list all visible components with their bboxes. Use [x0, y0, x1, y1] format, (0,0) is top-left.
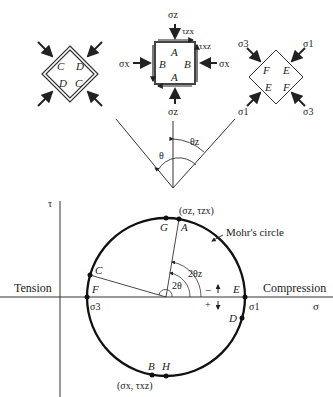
theta-z-label: θz: [190, 136, 200, 147]
label-F: F: [91, 283, 99, 295]
tau-zx: τzx: [182, 26, 195, 36]
label-B: B: [159, 58, 166, 70]
theta-label: θ: [159, 150, 164, 161]
label-C: C: [57, 60, 65, 72]
plus-sign: +: [205, 299, 211, 310]
sigma-z-top: σz: [168, 9, 178, 20]
label-D: D: [228, 312, 237, 324]
label-C: C: [75, 77, 83, 89]
point-B-coordinates: (σx, τxz): [117, 380, 153, 392]
label-E: E: [264, 81, 272, 93]
label-B: B: [148, 360, 155, 372]
sigma1-top: σ1: [303, 38, 313, 49]
label-D: D: [75, 60, 84, 72]
mohr-circle-diagram: C D D C σz τzx τxz σx σx σz A B B A σ3 σ…: [0, 0, 333, 397]
point-H: [164, 374, 169, 379]
label-F: F: [262, 64, 270, 76]
mohr-circle-plot: τ σ Tension Compression − + G A (σz, τzx…: [0, 198, 333, 397]
sigma3-bottom: σ3: [303, 106, 313, 117]
tau-xz: τxz: [199, 41, 211, 51]
sigma-axis-label: σ: [313, 300, 319, 312]
sigma1-bottom: σ1: [238, 106, 248, 117]
point-C: [88, 273, 93, 278]
label-H: H: [161, 360, 171, 372]
label-C: C: [95, 264, 103, 276]
label-G: G: [160, 221, 168, 233]
point-D: [240, 316, 245, 321]
tension-label: Tension: [14, 281, 52, 295]
sigma1-label: σ1: [249, 301, 259, 312]
mohrs-circle-label: Mohr's circle: [226, 226, 284, 238]
minus-sign: −: [205, 284, 211, 296]
label-A: A: [180, 221, 188, 233]
sigma-x-left: σx: [119, 58, 129, 69]
label-B: B: [184, 58, 191, 70]
angle-diagram: θ θz: [116, 119, 235, 188]
point-B: [150, 373, 155, 378]
label-E: E: [282, 64, 290, 76]
two-theta-label: 2θ: [172, 280, 182, 291]
label-E: E: [232, 283, 240, 295]
label-A: A: [170, 46, 178, 58]
element-middle: σz τzx τxz σx σx σz A B B A: [119, 9, 229, 117]
sigma3-label: σ3: [90, 301, 100, 312]
sigma-x-right: σx: [219, 58, 229, 69]
tau-axis-label: τ: [48, 198, 52, 209]
element-left: C D D C: [38, 42, 102, 106]
sigma-z-bottom: σz: [168, 106, 178, 117]
sigma3-top: σ3: [238, 38, 248, 49]
label-D: D: [58, 77, 67, 89]
label-F: F: [282, 81, 290, 93]
point-A-coordinates: (σz, τzx): [179, 205, 214, 217]
element-right: σ3 σ1 σ1 σ3 F E E F: [238, 38, 313, 117]
point-G: [164, 216, 169, 221]
point-E: [243, 295, 248, 300]
two-theta-z-label: 2θz: [188, 268, 203, 279]
compression-label: Compression: [263, 281, 326, 295]
label-A: A: [170, 71, 178, 83]
point-F: [85, 295, 90, 300]
